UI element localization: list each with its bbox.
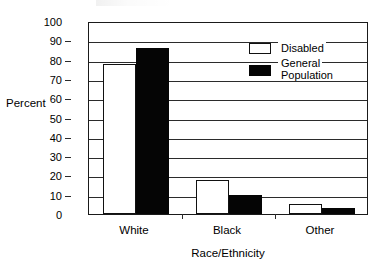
legend-label-disabled: Disabled xyxy=(278,42,326,54)
y-tick-mark-10 xyxy=(65,196,71,197)
y-tick-label-0: 0 xyxy=(56,210,62,221)
bar-black-disabled[interactable] xyxy=(196,180,229,214)
legend-label-general: General xyxy=(278,57,322,69)
y-tick-label-50: 50 xyxy=(50,113,62,124)
x-category-label-white: White xyxy=(119,224,148,236)
scan-artifact xyxy=(96,0,174,6)
x-category-label-black: Black xyxy=(213,224,241,236)
y-tick-label-30: 30 xyxy=(50,152,62,163)
y-tick-label-70: 70 xyxy=(50,74,62,85)
y-tick-label-20: 20 xyxy=(50,171,62,182)
bar-white-disabled[interactable] xyxy=(103,64,136,215)
x-axis-title: Race/Ethnicity xyxy=(191,247,265,259)
y-tick-mark-40 xyxy=(65,138,71,139)
plot-area: Disabled General Population xyxy=(88,22,368,215)
legend-swatch-general-population xyxy=(249,65,271,76)
y-tick-label-40: 40 xyxy=(50,132,62,143)
x-tick-mark-2 xyxy=(275,214,276,219)
x-tick-mark-1 xyxy=(182,214,183,219)
y-tick-mark-80 xyxy=(65,61,71,62)
gridline-80 xyxy=(89,62,367,63)
bar-chart-figure: Percent 100 90 80 70 60 50 40 30 20 10 0 xyxy=(0,0,385,263)
bar-other-general-population[interactable] xyxy=(322,208,355,214)
y-axis: Percent 100 90 80 70 60 50 40 30 20 10 0 xyxy=(0,0,88,263)
y-tick-label-90: 90 xyxy=(50,36,62,47)
y-tick-mark-70 xyxy=(65,80,71,81)
y-tick-mark-90 xyxy=(65,41,71,42)
x-category-label-other: Other xyxy=(306,224,335,236)
legend-swatch-disabled xyxy=(249,43,271,54)
bar-white-general-population[interactable] xyxy=(136,48,169,214)
y-tick-label-10: 10 xyxy=(50,190,62,201)
legend-label-population: Population xyxy=(278,69,335,81)
y-tick-label-60: 60 xyxy=(50,94,62,105)
y-tick-label-80: 80 xyxy=(50,55,62,66)
bar-other-disabled[interactable] xyxy=(289,204,322,214)
gridline-90 xyxy=(89,42,367,43)
y-tick-label-100: 100 xyxy=(44,17,62,28)
y-tick-mark-50 xyxy=(65,119,71,120)
y-tick-mark-20 xyxy=(65,176,71,177)
y-tick-mark-30 xyxy=(65,157,71,158)
y-tick-mark-60 xyxy=(65,99,71,100)
y-axis-title: Percent xyxy=(6,97,46,109)
bar-black-general-population[interactable] xyxy=(229,195,262,214)
